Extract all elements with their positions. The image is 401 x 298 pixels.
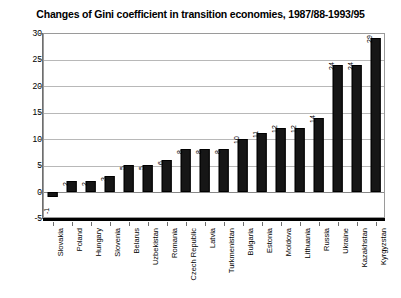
y-tick-label: 15 <box>4 107 42 117</box>
bar-value-label: 12 <box>290 125 297 133</box>
bars-layer: -12235568881011121214242429 <box>43 33 385 218</box>
bar-value-label: 11 <box>252 131 259 138</box>
bar[interactable] <box>351 65 362 192</box>
bar-slot: 29 <box>366 33 385 218</box>
bar-slot: 8 <box>214 33 233 218</box>
bar-slot: 2 <box>81 33 100 218</box>
bar-slot: -1 <box>43 33 62 218</box>
bar-slot: 3 <box>100 33 119 218</box>
x-tick-mark <box>186 222 187 226</box>
x-tick-mark <box>167 222 168 226</box>
x-axis-category-label: Belarus <box>132 228 141 253</box>
x-axis-category-label: Hungary <box>94 228 103 256</box>
x-axis-category-label: Poland <box>75 228 84 251</box>
x-tick-mark <box>357 222 358 226</box>
bar[interactable] <box>218 149 229 191</box>
bar-value-label: 2 <box>62 182 69 186</box>
x-axis-category-label: Czech Republic <box>189 228 198 281</box>
x-axis-labels: SlovakiaPolandHungarySloveniaBelarusUzbe… <box>43 222 385 298</box>
bar-value-label: 24 <box>347 62 354 70</box>
bar[interactable] <box>180 149 191 191</box>
bar-value-label: 6 <box>157 161 164 165</box>
x-axis-category-label: Russia <box>322 228 331 251</box>
bar[interactable] <box>47 192 58 197</box>
x-tick-mark <box>224 222 225 226</box>
x-axis-category-label: Bulgaria <box>246 228 255 256</box>
bar-value-label: 2 <box>81 182 88 186</box>
x-axis-category-label: Turkmenistan <box>227 228 236 273</box>
bar-slot: 10 <box>233 33 252 218</box>
y-tick-label: 20 <box>4 81 42 91</box>
x-axis-category-label: Slovenia <box>113 228 122 257</box>
y-tick-label: 0 <box>4 187 42 197</box>
x-axis-category-label: Estonia <box>265 228 274 253</box>
bar[interactable] <box>370 38 381 191</box>
x-tick-mark <box>262 222 263 226</box>
x-tick-mark <box>91 222 92 226</box>
bar-slot: 24 <box>347 33 366 218</box>
x-tick-mark <box>376 222 377 226</box>
bar-slot: 8 <box>176 33 195 218</box>
bar-slot: 2 <box>62 33 81 218</box>
bar-slot: 11 <box>252 33 271 218</box>
x-axis-category-label: Ukraine <box>341 228 350 254</box>
bar-slot: 6 <box>157 33 176 218</box>
bar-value-label: 8 <box>214 150 221 154</box>
y-axis-labels: 302520151050-5 <box>0 0 42 298</box>
x-axis-category-label: Kyrgyzstan <box>379 228 388 265</box>
x-axis-category-label: Uzbekistan <box>151 228 160 265</box>
y-tick-label: 25 <box>4 54 42 64</box>
x-axis-category-label: Moldova <box>284 228 293 256</box>
x-tick-mark <box>243 222 244 226</box>
y-tick-label: -5 <box>4 213 42 223</box>
x-tick-mark <box>53 222 54 226</box>
bar-value-label: 29 <box>366 35 373 43</box>
y-tick-label: 30 <box>4 28 42 38</box>
bar-value-label: 12 <box>271 125 278 133</box>
x-axis-line <box>43 218 385 221</box>
bar-slot: 14 <box>309 33 328 218</box>
bar-slot: 12 <box>290 33 309 218</box>
bar-value-label: 14 <box>309 115 316 123</box>
x-axis-category-label: Lithuania <box>303 228 312 258</box>
chart-title: Changes of Gini coefficient in transitio… <box>0 8 401 20</box>
bar-slot: 12 <box>271 33 290 218</box>
bar-value-label: -1 <box>43 208 50 214</box>
x-axis-category-label: Romania <box>170 228 179 258</box>
x-axis-category-label: Latvia <box>208 228 217 248</box>
bar-value-label: 5 <box>119 166 126 170</box>
bar-slot: 8 <box>195 33 214 218</box>
x-axis-category-label: Slovakia <box>56 228 65 256</box>
x-tick-mark <box>205 222 206 226</box>
bar-value-label: 10 <box>233 136 240 144</box>
bar-value-label: 5 <box>138 166 145 170</box>
x-tick-mark <box>148 222 149 226</box>
bar-value-label: 8 <box>176 150 183 154</box>
bar[interactable] <box>256 133 267 191</box>
bar[interactable] <box>237 139 248 192</box>
x-tick-mark <box>72 222 73 226</box>
bar-slot: 24 <box>328 33 347 218</box>
bar[interactable] <box>294 128 305 191</box>
bar-slot: 5 <box>119 33 138 218</box>
bar[interactable] <box>199 149 210 191</box>
bar[interactable] <box>313 118 324 192</box>
x-tick-mark <box>110 222 111 226</box>
x-tick-mark <box>300 222 301 226</box>
x-tick-mark <box>319 222 320 226</box>
bar-slot: 5 <box>138 33 157 218</box>
bar-value-label: 3 <box>100 177 107 181</box>
y-tick-label: 5 <box>4 160 42 170</box>
gini-bar-chart: Changes of Gini coefficient in transitio… <box>0 0 401 298</box>
bar[interactable] <box>275 128 286 191</box>
x-axis-category-label: Kazakhstan <box>360 228 369 267</box>
x-tick-mark <box>129 222 130 226</box>
x-tick-mark <box>338 222 339 226</box>
y-tick-label: 10 <box>4 134 42 144</box>
bar-value-label: 24 <box>328 62 335 70</box>
bar[interactable] <box>332 65 343 192</box>
bar-value-label: 8 <box>195 150 202 154</box>
x-tick-mark <box>281 222 282 226</box>
